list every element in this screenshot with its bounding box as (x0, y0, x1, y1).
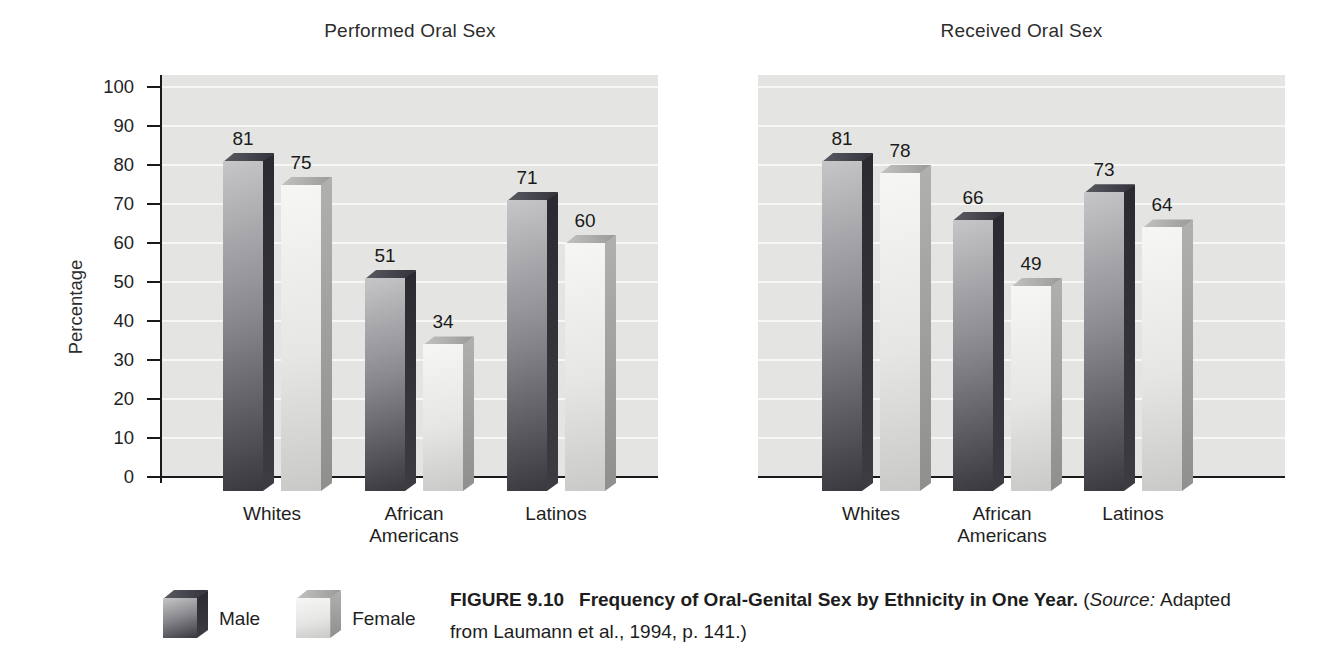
bar-male-latinos: 71 (507, 192, 558, 491)
bar-side-face (920, 165, 931, 491)
category-label: Whites (197, 503, 347, 525)
female-swatch-front-face (296, 598, 330, 638)
y-tick-label-100: 100 (50, 77, 134, 97)
y-tick-100 (147, 86, 160, 88)
bar-male-whites: 81 (223, 153, 274, 491)
bar-side-face (1182, 219, 1193, 491)
figure-number: FIGURE 9.10 (450, 589, 564, 610)
bar-side-face (263, 153, 274, 491)
figure-9-10-page: Performed Oral Sex 010203040506070809010… (0, 0, 1336, 650)
bar-female-whites: 75 (281, 177, 332, 492)
bar-front-face (365, 278, 405, 491)
bar-value-label: 60 (559, 210, 611, 232)
y-tick-label-30: 30 (50, 350, 134, 370)
y-tick-0 (147, 476, 160, 478)
y-axis-label: Percentage (65, 260, 87, 355)
y-tick-label-80: 80 (50, 155, 134, 175)
gridline-90 (758, 125, 1285, 127)
legend-label-female: Female (352, 608, 415, 630)
bar-female-african: 34 (423, 336, 474, 491)
y-tick-label-60: 60 (50, 233, 134, 253)
bar-front-face (1084, 192, 1124, 491)
category-label: Latinos (1058, 503, 1208, 525)
male-swatch-icon (163, 590, 208, 638)
y-axis-line (160, 75, 162, 483)
bar-side-face (862, 153, 873, 491)
chart-title-received: Received Oral Sex (758, 20, 1285, 42)
bar-male-african: 51 (365, 270, 416, 491)
bar-value-label: 64 (1136, 194, 1188, 216)
chart-title-performed: Performed Oral Sex (162, 20, 658, 42)
bar-value-label: 66 (947, 187, 999, 209)
bar-front-face (281, 185, 321, 492)
y-tick-label-20: 20 (50, 389, 134, 409)
bar-front-face (507, 200, 547, 491)
y-tick-70 (147, 203, 160, 205)
bar-female-latinos: 64 (1142, 219, 1193, 491)
bar-front-face (423, 344, 463, 491)
gridline-100 (162, 86, 658, 88)
bar-side-face (1124, 184, 1135, 491)
bar-front-face (1011, 286, 1051, 491)
bar-value-label: 34 (417, 311, 469, 333)
legend-label-male: Male (219, 608, 260, 630)
bar-female-latinos: 60 (565, 235, 616, 491)
category-label: African Americans (339, 503, 489, 547)
male-swatch-side-face (197, 590, 208, 638)
y-tick-30 (147, 359, 160, 361)
y-tick-label-70: 70 (50, 194, 134, 214)
female-swatch-side-face (330, 590, 341, 638)
bar-value-label: 81 (217, 128, 269, 150)
bar-front-face (880, 173, 920, 491)
female-swatch-icon (296, 590, 341, 638)
bar-side-face (321, 177, 332, 492)
caption-source-word: Source: (1089, 589, 1154, 610)
figure-caption: FIGURE 9.10Frequency of Oral-Genital Sex… (450, 584, 1250, 648)
bar-side-face (1051, 278, 1062, 491)
bar-male-african: 66 (953, 212, 1004, 491)
caption-title: Frequency of Oral-Genital Sex by Ethnici… (579, 589, 1078, 610)
y-tick-label-10: 10 (50, 428, 134, 448)
y-tick-80 (147, 164, 160, 166)
bar-male-whites: 81 (822, 153, 873, 491)
bar-side-face (993, 212, 1004, 491)
bar-chart-received-oral-sex: Received Oral Sex 8178Whites6649African … (758, 75, 1285, 477)
bar-front-face (565, 243, 605, 491)
bar-female-whites: 78 (880, 165, 931, 491)
bar-value-label: 81 (816, 128, 868, 150)
legend-item-male: Male (163, 590, 260, 638)
category-label: African Americans (927, 503, 1077, 547)
bar-chart-performed-oral-sex: Performed Oral Sex 010203040506070809010… (162, 75, 658, 477)
y-tick-label-40: 40 (50, 311, 134, 331)
bar-side-face (605, 235, 616, 491)
y-tick-label-90: 90 (50, 116, 134, 136)
category-label: Latinos (481, 503, 631, 525)
bar-value-label: 71 (501, 167, 553, 189)
bar-front-face (223, 161, 263, 491)
male-swatch-front-face (163, 598, 197, 638)
bar-front-face (822, 161, 862, 491)
bar-side-face (463, 336, 474, 491)
y-tick-label-0: 0 (50, 467, 134, 487)
y-tick-90 (147, 125, 160, 127)
y-tick-10 (147, 437, 160, 439)
bar-value-label: 78 (874, 140, 926, 162)
y-tick-60 (147, 242, 160, 244)
bar-female-african: 49 (1011, 278, 1062, 491)
bar-value-label: 73 (1078, 159, 1130, 181)
bar-front-face (953, 220, 993, 491)
gridline-90 (162, 125, 658, 127)
bar-value-label: 49 (1005, 253, 1057, 275)
bar-front-face (1142, 227, 1182, 491)
bar-value-label: 51 (359, 245, 411, 267)
bar-side-face (547, 192, 558, 491)
legend: Male Female (163, 590, 416, 638)
gridline-100 (758, 86, 1285, 88)
bar-side-face (405, 270, 416, 491)
bar-male-latinos: 73 (1084, 184, 1135, 491)
legend-item-female: Female (296, 590, 415, 638)
y-tick-50 (147, 281, 160, 283)
bar-value-label: 75 (275, 152, 327, 174)
y-tick-label-50: 50 (50, 272, 134, 292)
y-tick-40 (147, 320, 160, 322)
